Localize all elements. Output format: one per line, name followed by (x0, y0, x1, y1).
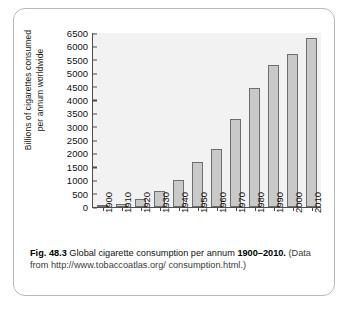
y-tick-label: 2500 (67, 135, 93, 146)
bar-slot: 1900 (93, 33, 112, 207)
x-tick-label: 2010 (312, 192, 323, 213)
y-tick-label: 500 (72, 188, 93, 199)
bar (306, 38, 318, 207)
y-tick-label: 3000 (67, 121, 93, 132)
figure-caption: Fig. 48.3 Global cigarette consumption p… (30, 247, 322, 272)
y-tick-label: 2000 (67, 148, 93, 159)
y-tick-label: 4000 (67, 94, 93, 105)
figure-card: Billions of cigarettes consumed per annu… (13, 8, 335, 296)
y-axis-label-line2: per annum worldwide (35, 49, 45, 132)
bar (249, 88, 261, 207)
bar-slot: 1970 (226, 33, 245, 207)
bar (287, 54, 299, 207)
bar-slot: 1910 (112, 33, 131, 207)
chart-figure: Billions of cigarettes consumed per annu… (14, 9, 336, 237)
figure-title: Global cigarette consumption per annum (69, 248, 234, 258)
figure-source-line2: consumption.html.) (168, 260, 246, 270)
bar (268, 65, 280, 207)
bar-slot: 1950 (188, 33, 207, 207)
y-tick-label: 5500 (67, 54, 93, 65)
bar-series: 1900191019201930194019501960197019801990… (93, 33, 321, 207)
y-tick-label: 5000 (67, 68, 93, 79)
y-axis-label: Billions of cigarettes consumed per annu… (23, 5, 49, 175)
figure-year-range: 1900–2010. (237, 248, 286, 258)
bar-slot: 2010 (302, 33, 321, 207)
bar-slot: 1980 (245, 33, 264, 207)
y-tick-label: 6500 (67, 28, 93, 39)
y-tick-label: 0 (83, 202, 93, 213)
y-axis-label-line1: Billions of cigarettes consumed (23, 30, 33, 150)
y-tick-label: 6000 (67, 41, 93, 52)
figure-number: Fig. 48.3 (30, 248, 67, 258)
bar-slot: 2000 (283, 33, 302, 207)
plot-area: 0500100015002000250030003500400045005000… (92, 33, 321, 208)
bar-slot: 1990 (264, 33, 283, 207)
y-tick-label: 3500 (67, 108, 93, 119)
bar-slot: 1930 (150, 33, 169, 207)
y-tick-label: 1000 (67, 175, 93, 186)
y-tick-label: 4500 (67, 81, 93, 92)
bar-slot: 1960 (207, 33, 226, 207)
y-tick-label: 1500 (67, 161, 93, 172)
bar-slot: 1940 (169, 33, 188, 207)
bar-slot: 1920 (131, 33, 150, 207)
